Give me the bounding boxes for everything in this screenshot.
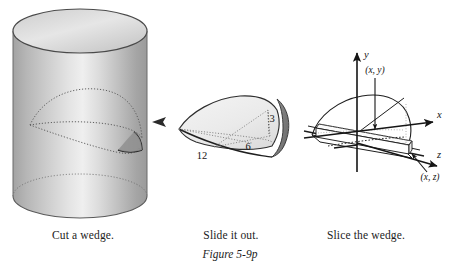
figure-5-9p: 12 6 3 y (0, 0, 460, 272)
caption-slide-it-out: Slide it out. (168, 229, 294, 241)
wedge-label-6: 6 (245, 141, 250, 152)
axis-y-label: y (363, 49, 369, 60)
point-label-xz: (x, z) (421, 172, 440, 183)
axis-z-label: z (436, 149, 441, 160)
caption-cut-a-wedge: Cut a wedge. (0, 229, 166, 241)
panel-slice-the-wedge: y x z (x, y) (x, z) (304, 49, 442, 183)
point-label-xy: (x, y) (365, 65, 385, 76)
cylinder-top-face (13, 9, 147, 53)
panel-cut-a-wedge (13, 9, 166, 218)
wedge-label-3: 3 (269, 113, 274, 124)
caption-slice-the-wedge: Slice the wedge. (296, 229, 436, 241)
slide-arrow-icon (152, 117, 166, 127)
panel-slide-it-out: 12 6 3 (179, 96, 289, 161)
wedge-label-12: 12 (197, 150, 208, 161)
figure-number: Figure 5-9p (160, 248, 300, 260)
wedge-top-face (179, 96, 279, 150)
axis-x-label: x (436, 109, 442, 120)
